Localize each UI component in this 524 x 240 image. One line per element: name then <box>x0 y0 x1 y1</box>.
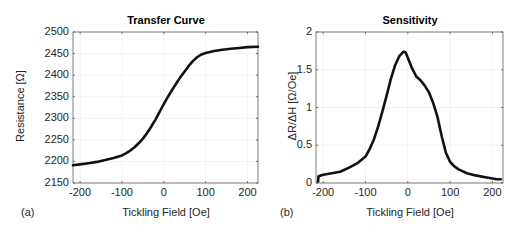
y-tick-label: 2450 <box>29 47 69 59</box>
y-tick-label: 2500 <box>29 25 69 37</box>
data-line-a <box>73 47 258 166</box>
x-tick-label: 200 <box>472 186 512 198</box>
y-tick-label: 2300 <box>29 111 69 123</box>
x-tick-label: -100 <box>102 186 142 198</box>
y-tick-label: 1.5 <box>272 63 312 75</box>
x-tick-label: 100 <box>186 186 226 198</box>
y-tick-label: 0.5 <box>272 138 312 150</box>
y-tick-label: 2200 <box>29 154 69 166</box>
y-tick-label: 2 <box>272 25 312 37</box>
y-tick-label: 2400 <box>29 68 69 80</box>
x-tick-label: 0 <box>388 186 428 198</box>
y-tick-label: 2250 <box>29 133 69 145</box>
data-line-b <box>318 52 501 182</box>
y-tick-label: 1 <box>272 101 312 113</box>
x-tick-label: 100 <box>430 186 470 198</box>
y-tick-label: 2150 <box>29 176 69 188</box>
x-tick-label: 0 <box>144 186 184 198</box>
y-tick-label: 2350 <box>29 90 69 102</box>
x-tick-label: -100 <box>346 186 386 198</box>
x-tick-label: 200 <box>228 186 268 198</box>
y-tick-label: 0 <box>272 176 312 188</box>
